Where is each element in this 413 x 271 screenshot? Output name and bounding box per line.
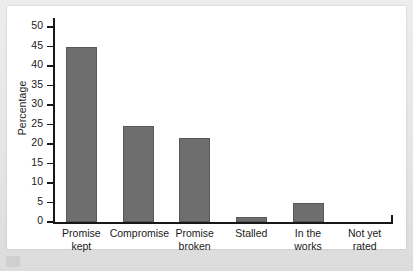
x-axis-category-label-line: In the (280, 227, 337, 240)
x-axis-category-label-line: Promise (53, 227, 110, 240)
bar (123, 126, 154, 222)
y-axis-tick-label: 45 (31, 39, 43, 52)
y-axis-tick-label: 50 (31, 19, 43, 32)
x-axis-category-label-line: Promise (166, 227, 223, 240)
page-corner-artifact (6, 256, 20, 267)
y-axis-tick-mark (47, 104, 53, 105)
page-background: Percentage 05101520253035404550Promiseke… (0, 0, 413, 271)
y-axis-tick-mark (47, 202, 53, 203)
bar (66, 47, 97, 223)
y-axis-tick: 20 (47, 143, 53, 144)
y-axis-title: Percentage (16, 65, 28, 151)
y-axis-tick: 25 (47, 124, 53, 125)
y-axis-tick: 30 (47, 104, 53, 105)
x-axis-category-label-line: Stalled (223, 227, 280, 240)
y-axis-tick: 50 (47, 26, 53, 27)
bar (179, 138, 210, 222)
y-axis-tick: 5 (47, 202, 53, 203)
x-axis-category-label-line: rated (336, 240, 393, 253)
y-axis-tick-mark (47, 124, 53, 125)
y-axis-tick-mark (47, 46, 53, 47)
y-axis-tick-label: 30 (31, 97, 43, 110)
x-axis-category-label-line: kept (53, 240, 110, 253)
y-axis-tick-mark (47, 221, 53, 222)
x-axis-category-label: Not yetrated (336, 227, 393, 252)
y-axis-tick-mark (47, 26, 53, 27)
x-axis-end-tick (391, 215, 393, 223)
y-axis-tick-label: 10 (31, 175, 43, 188)
y-axis-tick-label: 5 (37, 195, 43, 208)
y-axis-tick-label: 40 (31, 58, 43, 71)
y-axis-tick: 10 (47, 182, 53, 183)
x-axis-category-label-line: works (280, 240, 337, 253)
y-axis-tick-mark (47, 65, 53, 66)
y-axis-tick-mark (47, 143, 53, 144)
y-axis-tick: 45 (47, 46, 53, 47)
x-axis-category-label: Compromise (110, 227, 167, 240)
x-axis-category-label: In theworks (280, 227, 337, 252)
y-axis-tick: 35 (47, 85, 53, 86)
x-axis-category-label-line: Compromise (110, 227, 167, 240)
x-axis-category-label-line: broken (166, 240, 223, 253)
bar-chart-plot-area: Percentage 05101520253035404550Promiseke… (7, 6, 406, 249)
y-axis-tick-label: 20 (31, 136, 43, 149)
y-axis-tick-label: 25 (31, 117, 43, 130)
x-axis-category-label: Promisebroken (166, 227, 223, 252)
bar (236, 217, 267, 222)
y-axis-tick: 40 (47, 65, 53, 66)
y-axis-tick-label: 0 (37, 214, 43, 227)
y-axis-tick-label: 15 (31, 156, 43, 169)
y-axis-tick-mark (47, 163, 53, 164)
x-axis-category-label-line: Not yet (336, 227, 393, 240)
x-axis-line (53, 222, 393, 224)
y-axis-tick-mark (47, 182, 53, 183)
y-axis-tick: 15 (47, 163, 53, 164)
chart-panel: Percentage 05101520253035404550Promiseke… (7, 6, 406, 249)
y-axis-tick-mark (47, 85, 53, 86)
y-axis-line (53, 18, 55, 223)
x-axis-category-label: Promisekept (53, 227, 110, 252)
x-axis-category-label: Stalled (223, 227, 280, 240)
y-axis-tick-label: 35 (31, 78, 43, 91)
y-axis-tick: 0 (47, 221, 53, 222)
bar (293, 203, 324, 223)
